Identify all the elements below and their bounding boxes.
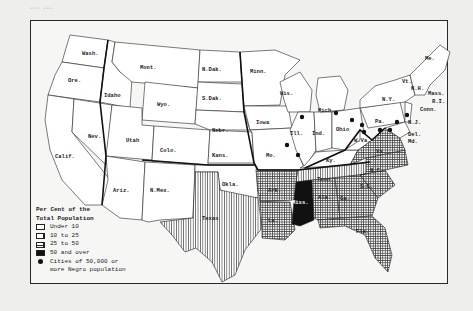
- label-wis: Wis.: [280, 90, 293, 97]
- label-tenn: Tenn.: [317, 176, 334, 183]
- label-miss: Miss.: [292, 199, 309, 206]
- label-vt: Vt.: [402, 78, 412, 85]
- label-iowa: Iowa: [256, 119, 270, 126]
- label-md: Md.: [408, 138, 418, 145]
- label-texas: Texas: [202, 215, 219, 222]
- legend-item-25-50: 25 to 50: [36, 240, 126, 249]
- legend-item-10-25: 10 to 25: [36, 232, 126, 241]
- legend-item-cities: Cities of 50,000 or: [36, 258, 126, 267]
- state-ark: [256, 170, 298, 202]
- state-colo: [152, 126, 210, 165]
- legend-item-under-10: Under 10: [36, 223, 126, 232]
- label-nmex: N.Mex.: [150, 187, 170, 194]
- label-del: Del.: [408, 131, 421, 138]
- label-calif: Calif.: [55, 153, 75, 160]
- label-ore: Ore.: [68, 77, 81, 84]
- legend-cities-line-2: more Negro population: [36, 266, 126, 275]
- state-fla: [318, 216, 392, 272]
- label-utah: Utah: [126, 137, 139, 144]
- label-conn: Conn.: [420, 106, 437, 113]
- label-wash: Wash.: [82, 50, 99, 57]
- state-iowa: [244, 106, 292, 130]
- legend-title-1: Per Cent of the: [36, 206, 126, 215]
- blank-swatch-icon: [36, 224, 45, 230]
- label-nev: Nev.: [88, 133, 101, 140]
- label-minn: Minn.: [250, 68, 267, 75]
- crosshatch-swatch-icon: [36, 242, 45, 248]
- legend-item-50-over: 50 and over: [36, 249, 126, 258]
- label-wyo: Wyo.: [157, 101, 170, 108]
- legend-title-2: Total Population: [36, 215, 126, 224]
- label-ala: Ala.: [318, 194, 331, 201]
- label-la: La.: [268, 217, 278, 224]
- label-nh: N.H.: [411, 85, 424, 92]
- label-okla: Okla.: [222, 181, 239, 188]
- label-nebr: Nebr.: [212, 127, 229, 134]
- label-ri: R.I.: [432, 98, 445, 105]
- label-sc: S.C.: [360, 183, 373, 190]
- label-nc: N.C.: [370, 167, 383, 174]
- label-mass: Mass.: [428, 90, 445, 97]
- label-ny: N.Y.: [382, 96, 395, 103]
- label-ill: Ill.: [290, 130, 303, 137]
- label-me: Me.: [425, 55, 435, 62]
- label-ohio: Ohio: [336, 126, 350, 133]
- label-ind: Ind.: [312, 130, 325, 137]
- vertical-lines-swatch-icon: [36, 233, 45, 239]
- label-kans: Kans.: [212, 152, 229, 159]
- label-ga: Ga.: [340, 195, 350, 202]
- label-pa: Pa.: [375, 118, 385, 125]
- label-ndak: N.Dak.: [202, 66, 222, 73]
- label-mo: Mo.: [266, 152, 276, 159]
- label-ariz: Ariz.: [113, 187, 130, 194]
- label-mich: Mich.: [318, 107, 335, 114]
- label-ark: Ark.: [268, 187, 281, 194]
- label-idaho: Idaho: [104, 92, 121, 99]
- label-sdak: S.Dak.: [202, 95, 222, 102]
- label-wva: W.Va.: [354, 137, 371, 144]
- label-nj: N.J.: [408, 119, 421, 126]
- label-mont: Mont.: [140, 64, 157, 71]
- label-fla: Fla.: [356, 228, 369, 235]
- label-ky: Ky.: [326, 157, 336, 164]
- map-legend: Per Cent of the Total Population Under 1…: [36, 206, 126, 275]
- city-dot-icon: [38, 259, 43, 264]
- solid-black-swatch-icon: [36, 250, 45, 256]
- label-va: Va.: [376, 148, 386, 155]
- label-colo: Colo.: [160, 147, 177, 154]
